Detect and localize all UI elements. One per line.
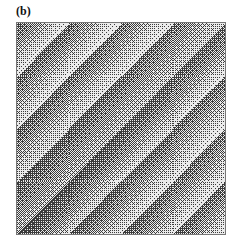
halftone-image	[17, 23, 225, 234]
panel-label: (b)	[16, 4, 31, 19]
halftone-panel	[16, 22, 226, 235]
